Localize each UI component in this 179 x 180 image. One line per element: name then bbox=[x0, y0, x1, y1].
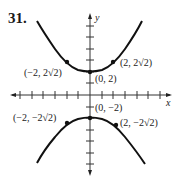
point-bottom-vertex bbox=[88, 116, 92, 120]
point-bottom-left bbox=[65, 121, 69, 125]
label-top-vertex: (0, 2) bbox=[95, 73, 117, 85]
label-bottom-left: (−2, −2√2) bbox=[13, 112, 56, 124]
y-axis-top-arrow-icon bbox=[88, 13, 92, 19]
label-top-right: (2, 2√2) bbox=[120, 57, 152, 69]
point-top-left bbox=[65, 60, 69, 64]
x-axis-left-arrow-icon bbox=[10, 93, 16, 97]
point-top-right bbox=[111, 60, 115, 64]
x-axis: x bbox=[10, 91, 172, 108]
point-bottom-right bbox=[114, 123, 118, 127]
y-axis-label: y bbox=[94, 12, 100, 23]
y-axis-bottom-arrow-icon bbox=[88, 170, 92, 176]
label-bottom-vertex: (0, −2) bbox=[95, 102, 122, 114]
label-bottom-right: (2, −2√2) bbox=[120, 117, 158, 129]
label-top-left: (−2, 2√2) bbox=[24, 67, 62, 79]
point-top-vertex bbox=[88, 70, 92, 74]
y-axis: y bbox=[86, 12, 100, 176]
hyperbola-graph: x y (0, 2) (2, 2√2) (−2, 2√2) bbox=[0, 0, 179, 180]
x-axis-label: x bbox=[165, 97, 171, 108]
